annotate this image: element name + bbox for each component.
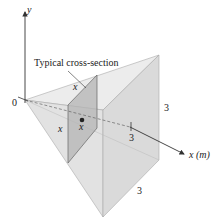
- section-left-label: x: [58, 124, 62, 134]
- y-axis-label: y: [27, 5, 31, 15]
- callout-label: Typical cross-section: [34, 58, 119, 68]
- centroid-label: x: [79, 122, 83, 132]
- pyramid-diagram: y 0 Typical cross-section x x x 3 3 3 x …: [0, 0, 221, 221]
- depth-label: 3: [137, 186, 142, 196]
- x-axis-label: x (m): [189, 150, 210, 160]
- origin-label: 0: [12, 98, 17, 108]
- section-top-label: x: [73, 82, 77, 92]
- height-label: 3: [164, 103, 169, 113]
- pyramid-figure: [0, 0, 221, 221]
- tick-label: 3: [129, 133, 134, 143]
